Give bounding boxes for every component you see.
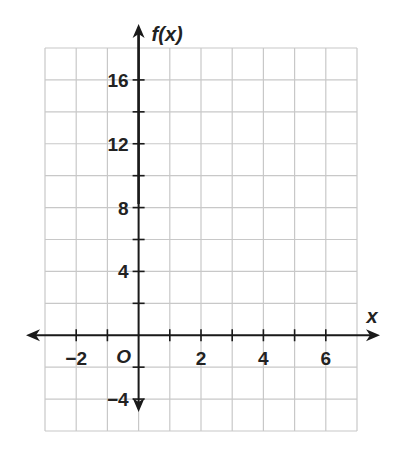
x-tick-label: −2 — [65, 348, 87, 369]
origin-label: O — [116, 346, 131, 367]
coordinate-plane: −2246161284−4Oxf(x) — [0, 0, 406, 474]
y-tick-label: 16 — [107, 70, 128, 91]
y-axis-label: f(x) — [152, 23, 183, 45]
x-tick-label: 4 — [258, 348, 269, 369]
axis-labels: −2246161284−4Oxf(x) — [65, 23, 378, 410]
y-tick-label: 4 — [118, 261, 129, 282]
grid-lines — [45, 48, 357, 431]
x-tick-label: 2 — [196, 348, 207, 369]
x-axis-label: x — [365, 305, 378, 327]
y-tick-label: −4 — [107, 389, 129, 410]
y-tick-label: 12 — [107, 134, 128, 155]
y-tick-label: 8 — [118, 198, 129, 219]
x-tick-label: 6 — [321, 348, 332, 369]
